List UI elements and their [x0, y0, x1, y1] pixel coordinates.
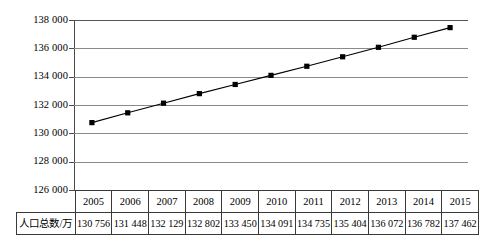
table-header-year: 2015: [442, 191, 479, 213]
table-row-values: 人口总数/万 130 756 131 448 132 129 132 802 1…: [17, 213, 479, 235]
table-header-year: 2012: [332, 191, 369, 213]
y-tick-label: 132 000: [6, 100, 68, 110]
table-cell-value: 134 735: [295, 213, 332, 235]
table-cell-value: 132 802: [185, 213, 222, 235]
gridline-134000: [74, 77, 468, 78]
table-header-year: 2005: [75, 191, 112, 213]
chart-figure: 138 000 136 000 134 000 132 000 130 000 …: [0, 0, 479, 248]
plot-area: [74, 20, 468, 190]
y-axis-labels: 138 000 136 000 134 000 132 000 130 000 …: [0, 0, 68, 200]
table-cell-value: 132 129: [149, 213, 186, 235]
table-row-years: 2005 2006 2007 2008 2009 2010 2011 2012 …: [17, 191, 479, 213]
table-header-year: 2008: [185, 191, 222, 213]
table-cell-value: 135 404: [332, 213, 369, 235]
gridline-132000: [74, 105, 468, 106]
table-cell-value: 131 448: [112, 213, 149, 235]
table-header-year: 2013: [368, 191, 405, 213]
data-table: 2005 2006 2007 2008 2009 2010 2011 2012 …: [16, 190, 479, 235]
gridline-128000: [74, 162, 468, 163]
y-tick-label: 128 000: [6, 156, 68, 166]
table-cell-value: 136 782: [405, 213, 442, 235]
table-row-header: 人口总数/万: [17, 213, 76, 235]
table-cell-value: 136 072: [368, 213, 405, 235]
y-tick-label: 134 000: [6, 71, 68, 81]
gridline-130000: [74, 133, 468, 134]
y-tick-label: 130 000: [6, 128, 68, 138]
y-tick-label: 136 000: [6, 43, 68, 53]
table-header-year: 2009: [222, 191, 259, 213]
table-corner-blank: [17, 191, 76, 213]
table-cell-value: 134 091: [259, 213, 296, 235]
table-header-year: 2014: [405, 191, 442, 213]
gridline-136000: [74, 48, 468, 49]
y-tick-label: 138 000: [6, 15, 68, 25]
gridline-138000: [74, 20, 468, 21]
table-header-year: 2006: [112, 191, 149, 213]
table-header-year: 2011: [295, 191, 332, 213]
table-header-year: 2007: [149, 191, 186, 213]
table-header-year: 2010: [259, 191, 296, 213]
table-cell-value: 137 462: [442, 213, 479, 235]
table-cell-value: 133 450: [222, 213, 259, 235]
table-cell-value: 130 756: [75, 213, 112, 235]
